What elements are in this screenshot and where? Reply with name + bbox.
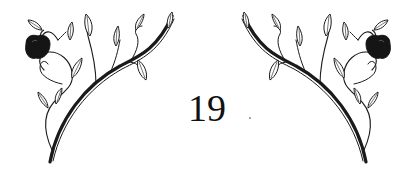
apple-icon	[26, 30, 50, 58]
apple-vine-icon	[216, 0, 416, 174]
apple-vine-icon	[0, 0, 200, 174]
left-apple-vine-ornament	[0, 0, 200, 174]
apple-icon	[366, 30, 390, 58]
right-apple-vine-ornament	[216, 0, 416, 174]
